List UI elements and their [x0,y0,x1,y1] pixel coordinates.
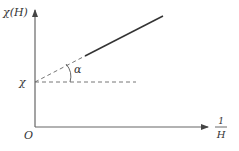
angle-arc [66,64,71,82]
data-line [85,16,163,56]
x-axis-label-denominator: H [216,129,226,140]
x-axis-label-numerator: 1 [218,116,224,126]
origin-label: O [24,129,33,142]
angle-label: α [74,63,82,76]
intercept-label: χ [18,76,27,89]
diagram-canvas: χ(H) χ α O 1 H [0,0,239,151]
y-axis-label: χ(H) [2,6,28,19]
